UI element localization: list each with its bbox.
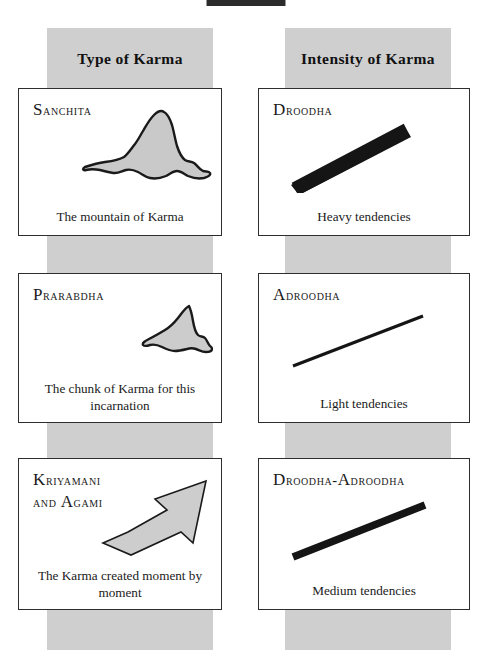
- card-title-prarabdha: Prarabdha: [33, 284, 104, 306]
- card-adroodha: Adroodha Light tendencies: [258, 273, 470, 423]
- card-title-and: and: [33, 494, 56, 510]
- card-title-initial: K: [33, 470, 46, 489]
- card-caption-droodha-adroodha: Medium tendencies: [265, 583, 463, 600]
- card-sanchita: Sanchita The mountain of Karma: [18, 88, 222, 236]
- card-kriyamani-agami: Kriyamaniand Agami The Karma created mom…: [18, 458, 222, 610]
- thick-diagonal-bar-icon: [277, 115, 455, 193]
- card-title-adroodha: Adroodha: [273, 284, 340, 306]
- card-caption-prarabdha: The chunk of Karma for this incarnation: [25, 381, 215, 415]
- card-title-droodha-adroodha: Droodha-Adroodha: [273, 469, 405, 491]
- thin-diagonal-line-icon: [277, 304, 455, 378]
- top-crop-bar: [206, 0, 286, 6]
- card-title-initial: A: [273, 285, 286, 304]
- chunk-shape-icon: [127, 300, 213, 362]
- card-title-rest: droodha: [286, 287, 340, 303]
- column-header-intensity: Intensity of Karma: [285, 28, 451, 90]
- card-caption-kriyamani-agami: The Karma created moment by moment: [25, 568, 215, 602]
- medium-diagonal-bar-icon: [277, 491, 457, 569]
- card-caption-droodha: Heavy tendencies: [265, 209, 463, 226]
- card-title-initial-2: A: [61, 492, 74, 511]
- card-caption-adroodha: Light tendencies: [265, 396, 463, 413]
- card-title-rest: roodha-: [286, 472, 338, 488]
- card-title-initial-2: A: [338, 470, 351, 489]
- card-droodha: Droodha Heavy tendencies: [258, 88, 470, 236]
- card-title-initial: S: [33, 100, 43, 119]
- column-header-type: Type of Karma: [47, 28, 213, 90]
- card-title-rest: rarabdha: [43, 287, 104, 303]
- up-right-arrow-shape-icon: [93, 475, 213, 567]
- mountain-shape-icon: [81, 105, 213, 193]
- card-prarabdha: Prarabdha The chunk of Karma for this in…: [18, 273, 222, 423]
- card-droodha-adroodha: Droodha-Adroodha Medium tendencies: [258, 458, 470, 610]
- card-title-initial: D: [273, 470, 286, 489]
- card-caption-sanchita: The mountain of Karma: [25, 209, 215, 226]
- diagram-page: Type of Karma Intensity of Karma Sanchit…: [0, 0, 489, 656]
- card-title-rest-2: droodha: [351, 472, 405, 488]
- card-title-initial: P: [33, 285, 43, 304]
